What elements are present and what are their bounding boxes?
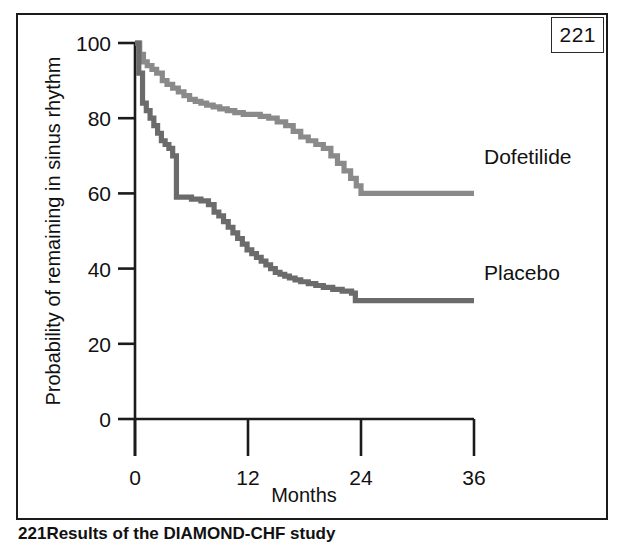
series-label-dofetilide: Dofetilide: [484, 145, 572, 168]
x-tick-label: 36: [462, 466, 485, 489]
y-axis-tick-labels: 020406080100: [76, 32, 111, 431]
x-tick-label: 12: [236, 466, 259, 489]
series-line-dofetilide: [135, 43, 474, 193]
figure-root: 221 020406080100 0122436 DofetilidePlace…: [0, 0, 628, 542]
figure-frame: 221 020406080100 0122436 DofetilidePlace…: [16, 13, 608, 520]
series-label-placebo: Placebo: [484, 261, 560, 284]
series-line-placebo: [135, 43, 474, 301]
y-tick-label: 40: [88, 258, 111, 281]
y-tick-label: 60: [88, 182, 111, 205]
figure-caption-number: 221: [18, 524, 46, 542]
y-axis-title: Probability of remaining in sinus rhythm: [42, 56, 64, 405]
chart-series-group: [135, 43, 474, 301]
survival-curve-chart: 020406080100 0122436 DofetilidePlacebo M…: [18, 15, 606, 518]
y-tick-label: 100: [76, 32, 111, 55]
x-axis-title: Months: [271, 484, 337, 506]
y-tick-label: 20: [88, 333, 111, 356]
figure-caption-text: Results of the DIAMOND-CHF study: [46, 524, 335, 542]
y-tick-label: 0: [99, 408, 111, 431]
chart-series-labels: DofetilidePlacebo: [484, 145, 572, 285]
x-tick-label: 24: [349, 466, 373, 489]
x-tick-label: 0: [129, 466, 141, 489]
y-tick-label: 80: [88, 107, 111, 130]
x-axis-ticks: [135, 419, 474, 456]
y-axis-ticks: [118, 43, 135, 419]
chart-axes: [135, 43, 474, 456]
figure-caption: 221Results of the DIAMOND-CHF study: [18, 524, 618, 542]
